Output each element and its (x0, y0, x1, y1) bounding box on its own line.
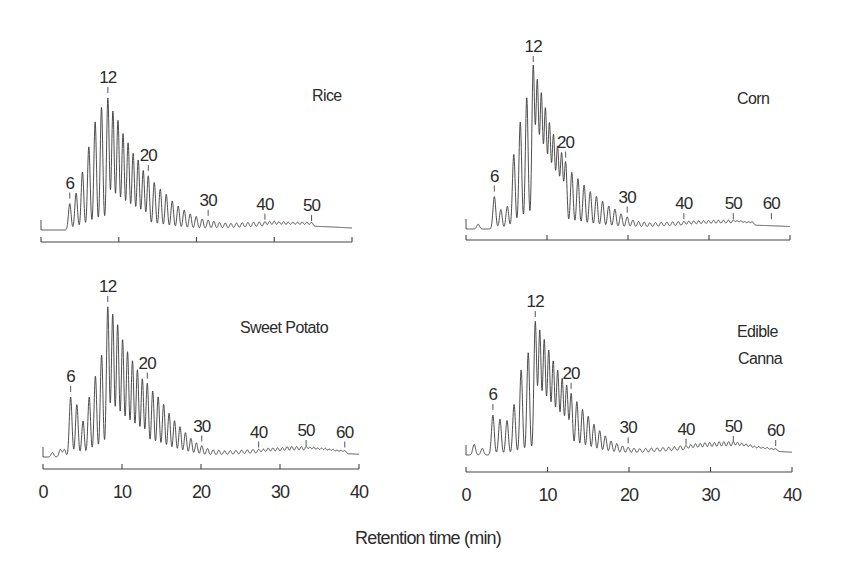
dp-marker-label: 30 (200, 191, 218, 210)
dp-marker-label: 12 (99, 277, 117, 296)
dp-marker-label: 20 (139, 354, 157, 373)
x-axis-tick-label: 30 (271, 482, 290, 502)
x-axis-tick-label: 30 (701, 485, 720, 505)
dp-marker-label: 40 (256, 195, 274, 214)
dp-marker-label: 20 (562, 364, 580, 383)
panel-corn: 6122030405060 Corn (466, 37, 790, 240)
dp-marker-label: 50 (303, 196, 321, 215)
x-axis-tick-label: 0 (461, 485, 471, 505)
corn-panel-label: Corn (737, 90, 769, 107)
dp-marker-label: 12 (99, 68, 117, 87)
edible-canna-panel-label-line2: Canna (738, 350, 783, 367)
panel-sweet-potato: 6122030405060 010203040 Sweet Potato (38, 277, 369, 502)
dp-marker-label: 6 (66, 367, 75, 386)
dp-marker-label: 50 (725, 417, 743, 436)
edible-canna-panel-label: Edible (737, 323, 779, 340)
x-axis-tick-label: 10 (538, 485, 557, 505)
dp-marker-label: 30 (193, 417, 211, 436)
rice-x-axis (41, 237, 352, 242)
dp-marker-label: 30 (620, 418, 638, 437)
panel-rice: 61220304050 Rice (41, 68, 352, 242)
dp-marker-label: 60 (763, 194, 781, 213)
dp-marker-label: 40 (675, 194, 693, 213)
corn-x-axis (466, 235, 790, 240)
dp-marker-label: 40 (677, 420, 695, 439)
dp-marker-label: 20 (140, 146, 158, 165)
sweet-potato-x-axis: 010203040 (38, 464, 369, 502)
dp-marker-label: 30 (619, 188, 637, 207)
panel-edible-canna: 6122030405060 010203040 Edible Canna (461, 292, 802, 505)
dp-marker-label: 12 (527, 292, 545, 311)
dp-marker-label: 50 (725, 194, 743, 213)
dp-marker-label: 20 (557, 133, 575, 152)
dp-marker-label: 6 (65, 174, 74, 193)
dp-marker-label: 6 (490, 167, 499, 186)
dp-marker-label: 40 (250, 423, 268, 442)
dp-marker-label: 60 (336, 423, 354, 442)
x-axis-tick-label: 10 (113, 482, 132, 502)
x-axis-tick-label: 0 (38, 482, 48, 502)
x-axis-tick-label: 40 (783, 485, 802, 505)
dp-marker-label: 6 (489, 385, 498, 404)
rice-panel-label: Rice (312, 87, 342, 104)
x-axis-tick-label: 20 (192, 482, 211, 502)
x-axis-tick-label: 20 (620, 485, 639, 505)
x-axis-title: Retention time (min) (355, 528, 501, 548)
chromatogram-figure: 61220304050 Rice 6122030405060 Corn 6122… (0, 0, 842, 572)
corn-dp-markers: 6122030405060 (490, 37, 780, 219)
x-axis-tick-label: 40 (350, 482, 369, 502)
dp-marker-label: 12 (525, 37, 543, 56)
dp-marker-label: 50 (297, 421, 315, 440)
edible-canna-x-axis: 010203040 (461, 467, 802, 505)
dp-marker-label: 60 (767, 421, 785, 440)
sweet-potato-panel-label: Sweet Potato (240, 319, 329, 336)
